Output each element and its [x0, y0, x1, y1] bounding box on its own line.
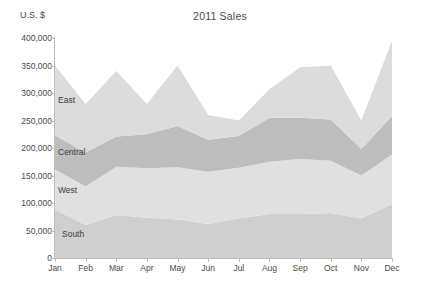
y-tick-label: 100,000 [4, 198, 52, 208]
series-label-east: East [58, 95, 75, 105]
x-tick-label-oct: Oct [324, 263, 337, 273]
chart-root: U.S. $ 2011 Sales 050,000100,000150,0002… [0, 0, 440, 290]
y-tick-mark [51, 176, 55, 177]
series-label-central: Central [58, 147, 85, 157]
y-tick-label: 350,000 [4, 61, 52, 71]
y-tick-mark [51, 148, 55, 149]
x-tick-mark [300, 258, 301, 262]
x-tick-mark [208, 258, 209, 262]
y-tick-mark [51, 38, 55, 39]
x-tick-label-mar: Mar [109, 263, 124, 273]
y-tick-mark [51, 203, 55, 204]
x-tick-mark [116, 258, 117, 262]
plot-area [55, 38, 392, 258]
x-tick-label-jan: Jan [48, 263, 62, 273]
x-tick-label-aug: Aug [262, 263, 277, 273]
x-tick-label-feb: Feb [78, 263, 93, 273]
x-tick-mark [147, 258, 148, 262]
x-tick-label-sep: Sep [293, 263, 308, 273]
x-tick-label-jul: Jul [233, 263, 244, 273]
x-tick-label-may: May [170, 263, 186, 273]
y-tick-label: 400,000 [4, 33, 52, 43]
y-tick-label: 150,000 [4, 171, 52, 181]
series-label-west: West [58, 185, 77, 195]
x-tick-mark [392, 258, 393, 262]
x-axis-line [54, 258, 393, 259]
x-tick-label-apr: Apr [140, 263, 153, 273]
y-tick-mark [51, 231, 55, 232]
y-tick-label: 0 [4, 253, 52, 263]
x-tick-mark [86, 258, 87, 262]
x-tick-mark [269, 258, 270, 262]
x-tick-mark [55, 258, 56, 262]
x-tick-label-nov: Nov [354, 263, 369, 273]
x-tick-label-jun: Jun [201, 263, 215, 273]
x-tick-mark [239, 258, 240, 262]
x-tick-mark [178, 258, 179, 262]
stacked-area-svg [55, 38, 392, 258]
y-tick-mark [51, 93, 55, 94]
y-tick-mark [51, 66, 55, 67]
y-tick-label: 200,000 [4, 143, 52, 153]
series-label-south: South [62, 229, 84, 239]
y-axis-tick-labels: 050,000100,000150,000200,000250,000300,0… [0, 0, 52, 290]
chart-title: 2011 Sales [0, 10, 440, 22]
y-tick-label: 50,000 [4, 226, 52, 236]
y-tick-mark [51, 121, 55, 122]
y-tick-label: 300,000 [4, 88, 52, 98]
y-tick-label: 250,000 [4, 116, 52, 126]
x-tick-mark [331, 258, 332, 262]
x-tick-label-dec: Dec [384, 263, 399, 273]
x-tick-mark [361, 258, 362, 262]
